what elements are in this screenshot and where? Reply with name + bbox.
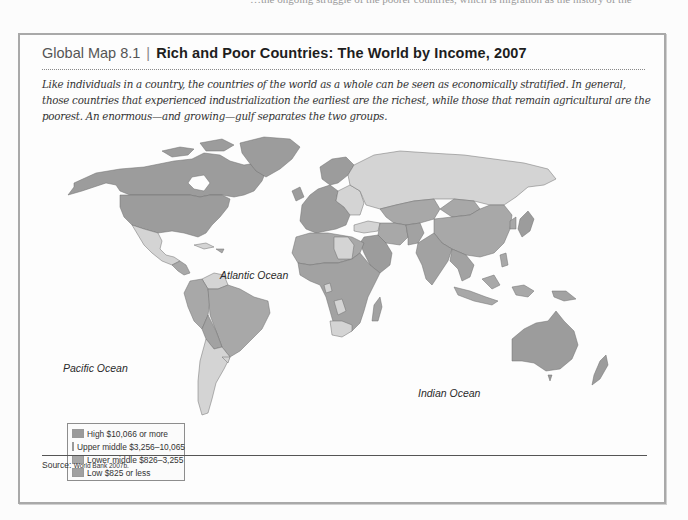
- pacific-ocean-label: Pacific Ocean: [63, 362, 128, 374]
- source-divider: [42, 455, 647, 456]
- figure-caption: Like individuals in a country, the count…: [42, 76, 652, 124]
- source-value: World Bank 2007b.: [74, 462, 129, 469]
- world-map-graphic: [34, 125, 634, 455]
- legend-label: High $10,066 or more: [87, 429, 168, 439]
- region-scandinavia: [320, 157, 354, 185]
- map-legend: High $10,066 or more Upper middle $3,256…: [67, 423, 185, 481]
- title-separator: |: [146, 45, 150, 61]
- figure-frame: Global Map 8.1|Rich and Poor Countries: …: [18, 33, 666, 504]
- atlantic-ocean-label: Atlantic Ocean: [220, 269, 288, 281]
- world-map: Atlantic Ocean Pacific Ocean Indian Ocea…: [34, 125, 634, 455]
- region-new-zealand: [592, 355, 608, 385]
- indian-ocean-label: Indian Ocean: [418, 387, 480, 399]
- figure-heading: Rich and Poor Countries: The World by In…: [156, 45, 527, 61]
- legend-swatch: [72, 429, 84, 438]
- region-north-america-north: [68, 153, 266, 197]
- figure-title: Global Map 8.1|Rich and Poor Countries: …: [42, 45, 527, 61]
- legend-item-high: High $10,066 or more: [72, 427, 184, 440]
- region-turkey: [354, 221, 380, 233]
- legend-item-upper-middle: Upper middle $3,256–10,065: [72, 440, 184, 453]
- region-madagascar: [372, 297, 382, 321]
- source-label: Source:: [42, 460, 71, 470]
- figure-label: Global Map 8.1: [42, 45, 140, 61]
- legend-label: Upper middle $3,256–10,065: [77, 442, 185, 452]
- dotted-divider: [42, 69, 645, 70]
- legend-swatch: [72, 442, 74, 451]
- region-indonesia: [454, 287, 498, 305]
- page-cutoff-text: …the ongoing struggle of the poorer coun…: [250, 0, 688, 5]
- region-japan: [518, 211, 534, 237]
- source-line: Source: World Bank 2007b.: [42, 460, 129, 470]
- region-australia: [512, 311, 578, 371]
